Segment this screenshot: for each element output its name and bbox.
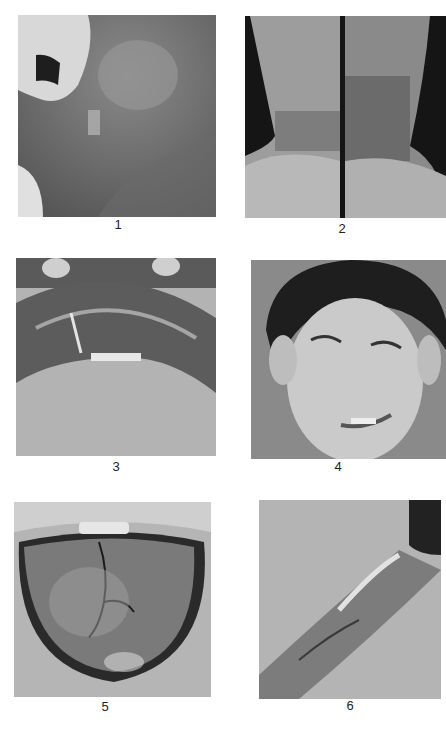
figure-2-label: 2 (327, 222, 357, 236)
figure-3-photo (16, 258, 216, 456)
figure-4-photo (251, 260, 446, 459)
figure-1-photo (18, 15, 216, 217)
figure-6-label: 6 (335, 699, 365, 713)
figure-5-label: 5 (90, 700, 120, 714)
figure-2-photo (245, 16, 446, 218)
figure-3-label: 3 (101, 460, 131, 474)
figure-5-photo (14, 502, 211, 697)
figure-6-photo (259, 500, 441, 699)
figure-1-label: 1 (103, 218, 133, 232)
figure-4-label: 4 (323, 460, 353, 474)
